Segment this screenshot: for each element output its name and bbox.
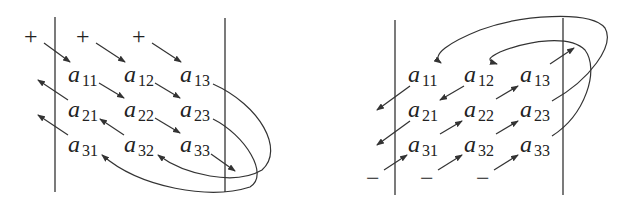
matrix-element: a31	[408, 131, 438, 159]
svg-text:a: a	[68, 61, 80, 87]
svg-text:32: 32	[478, 142, 494, 159]
loop-arrow-icon	[438, 16, 607, 101]
svg-text:a: a	[408, 96, 420, 122]
arrow-icon	[377, 86, 410, 110]
matrix-element: a11	[68, 61, 97, 89]
minus-sign: −	[476, 165, 490, 191]
matrix-element: a33	[180, 131, 210, 159]
matrix-element: a32	[124, 131, 154, 159]
svg-text:13: 13	[194, 72, 210, 89]
svg-text:a: a	[124, 96, 136, 122]
arrow-icon	[99, 83, 124, 98]
arrow-icon	[440, 121, 462, 134]
matrix-element: a31	[68, 131, 98, 159]
svg-text:a: a	[124, 131, 136, 157]
arrow-icon	[38, 80, 68, 100]
matrix-element: a21	[408, 96, 438, 124]
svg-text:23: 23	[534, 107, 550, 124]
plus-sign: +	[132, 23, 146, 49]
svg-text:22: 22	[478, 107, 494, 124]
right-panel-negative: − − − a11 a12 a13 a21 a22 a23 a31 a32 a3…	[366, 16, 607, 195]
plus-sign: +	[76, 23, 90, 49]
svg-text:13: 13	[534, 72, 550, 89]
svg-text:11: 11	[82, 72, 97, 89]
matrix-element: a22	[124, 96, 154, 124]
svg-text:21: 21	[82, 107, 98, 124]
svg-text:a: a	[180, 131, 192, 157]
svg-text:a: a	[464, 61, 476, 87]
svg-text:a: a	[520, 131, 532, 157]
svg-text:33: 33	[534, 142, 550, 159]
matrix-element: a12	[464, 61, 494, 89]
matrix-element: a12	[124, 61, 154, 89]
matrix-element: a32	[464, 131, 494, 159]
matrix-element: a23	[520, 96, 550, 124]
matrix-element: a13	[520, 61, 550, 89]
arrow-icon	[211, 154, 235, 171]
left-panel-positive: + + + a11 a12 a13 a21 a22 a23 a31 a32 a3…	[24, 17, 271, 192]
svg-text:a: a	[180, 96, 192, 122]
matrix-element: a13	[180, 61, 210, 89]
arrow-icon	[550, 48, 574, 64]
loop-arrow-icon	[158, 84, 271, 178]
matrix-element: a11	[408, 61, 437, 89]
arrow-icon	[494, 155, 518, 170]
sarrus-diagram: + + + a11 a12 a13 a21 a22 a23 a31 a32 a3…	[0, 0, 636, 202]
plus-sign: +	[24, 23, 38, 49]
matrix-element: a33	[520, 131, 550, 159]
svg-text:32: 32	[138, 142, 154, 159]
minus-sign: −	[366, 165, 380, 191]
matrix-element: a22	[464, 96, 494, 124]
svg-text:a: a	[408, 131, 420, 157]
svg-text:a: a	[68, 96, 80, 122]
arrow-icon	[100, 119, 124, 135]
svg-text:a: a	[124, 61, 136, 87]
svg-text:22: 22	[138, 107, 154, 124]
arrow-icon	[438, 155, 462, 170]
arrow-icon	[496, 86, 518, 99]
arrow-icon	[155, 83, 180, 98]
matrix-element: a23	[180, 96, 210, 124]
svg-text:a: a	[180, 61, 192, 87]
svg-text:12: 12	[138, 72, 154, 89]
svg-text:33: 33	[194, 142, 210, 159]
arrow-icon	[155, 118, 180, 133]
arrow-icon	[96, 43, 125, 62]
svg-text:21: 21	[422, 107, 438, 124]
svg-text:a: a	[520, 61, 532, 87]
arrow-icon	[44, 43, 70, 62]
arrow-icon	[496, 121, 518, 134]
svg-text:a: a	[464, 96, 476, 122]
svg-text:a: a	[68, 131, 80, 157]
arrow-icon	[377, 121, 410, 145]
svg-text:a: a	[464, 131, 476, 157]
svg-text:23: 23	[194, 107, 210, 124]
matrix-element: a21	[68, 96, 98, 124]
svg-text:31: 31	[82, 142, 98, 159]
svg-text:a: a	[520, 96, 532, 122]
arrow-icon	[38, 115, 68, 135]
svg-text:a: a	[408, 61, 420, 87]
arrow-icon	[440, 86, 464, 100]
arrow-icon	[152, 43, 181, 62]
svg-text:11: 11	[422, 72, 437, 89]
svg-text:12: 12	[478, 72, 494, 89]
minus-sign: −	[420, 165, 434, 191]
svg-text:31: 31	[422, 142, 438, 159]
